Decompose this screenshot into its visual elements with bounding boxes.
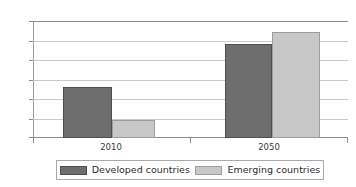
plot-area: 60 50 40 30 20 10 0 2010 2050 xyxy=(33,21,348,138)
legend-item-emerging[interactable]: Emerging countries xyxy=(195,165,320,175)
chart-legend: Developed countries Emerging countries xyxy=(56,160,324,180)
ytick-mark-40 xyxy=(29,60,33,61)
ytick-mark-20 xyxy=(29,99,33,100)
ytick-mark-30 xyxy=(29,80,33,81)
xtick-mark-left xyxy=(33,138,34,143)
chart-title: Ratio of consumers (billion) xyxy=(0,0,356,3)
legend-label-emerging: Emerging countries xyxy=(227,165,320,175)
bar-emerging-2050[interactable] xyxy=(272,32,320,138)
ytick-mark-10 xyxy=(29,119,33,120)
legend-swatch-developed-icon xyxy=(60,166,87,175)
legend-label-developed: Developed countries xyxy=(92,165,190,175)
ytick-mark-60 xyxy=(29,21,33,22)
legend-item-developed[interactable]: Developed countries xyxy=(60,165,190,175)
bar-chart: Ratio of consumers (billion) 60 50 40 30… xyxy=(0,0,356,187)
xtick-mark-right xyxy=(347,138,348,143)
gridline-60 xyxy=(33,21,348,22)
xtick-mark-middle xyxy=(190,138,191,143)
ytick-mark-50 xyxy=(29,41,33,42)
xcat-label-2010: 2010 xyxy=(81,143,141,152)
legend-swatch-emerging-icon xyxy=(195,166,222,175)
xcat-label-2050: 2050 xyxy=(239,143,299,152)
bar-developed-2050[interactable] xyxy=(225,44,272,138)
bar-developed-2010[interactable] xyxy=(63,87,112,138)
bar-emerging-2010[interactable] xyxy=(112,120,155,139)
